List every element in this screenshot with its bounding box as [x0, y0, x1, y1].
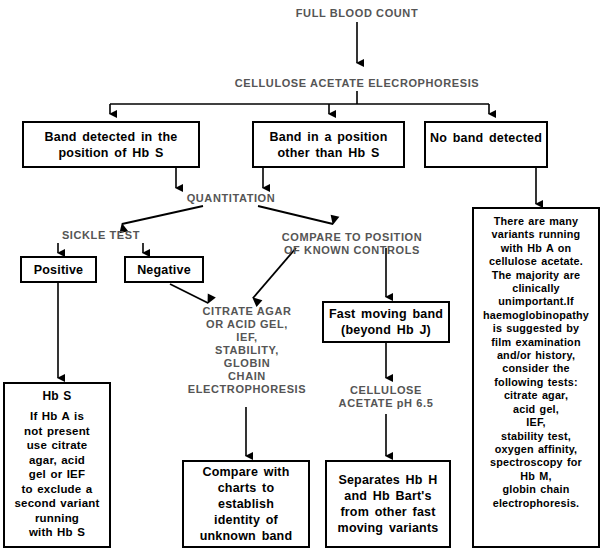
node-cellulose-acetate-ph-line2: ACETATE pH 6.5 [339, 397, 434, 410]
node-band-detected-hb-s[interactable]: Band detected in the position of Hb S [22, 121, 200, 168]
node-full-blood-count: FULL BLOOD COUNT [272, 4, 442, 22]
node-citrate-agar-tests-line3: IEF, [236, 331, 257, 344]
node-sickle-test-label: SICKLE TEST [62, 229, 140, 242]
node-many-variants-line16: IEF, [526, 416, 545, 429]
node-citrate-agar-tests-line6: CHAIN [228, 370, 266, 383]
node-hb-s-details-line9: with Hb S [29, 525, 85, 540]
node-citrate-agar-tests-line2: OR ACID GEL, [206, 318, 288, 331]
node-band-detected-hb-s-line1: Band detected in the [45, 129, 178, 145]
node-many-variants-line2: variants running [492, 228, 581, 241]
node-many-variants-line6: clinically [512, 282, 560, 295]
node-many-variants-advice[interactable]: There are many variants running with Hb … [472, 207, 600, 548]
node-hb-s-details-line3: use citrate [27, 438, 88, 453]
node-hb-s-details-line8: running [35, 511, 79, 526]
node-positive[interactable]: Positive [20, 256, 97, 283]
node-compare-with-charts-line3: establish [218, 496, 274, 512]
node-hb-s-details-line7: second variant [15, 496, 100, 511]
node-cellulose-acetate-ph: CELLULOSE ACETATE pH 6.5 [318, 380, 454, 414]
node-cellulose-acetate-ph-line1: CELLULOSE [350, 384, 422, 397]
node-sickle-test: SICKLE TEST [48, 227, 154, 243]
node-compare-to-position-line1: COMPARE TO POSITION [282, 231, 423, 244]
node-many-variants-line7: unimportant.If [498, 295, 573, 308]
node-band-detected-hb-s-line2: position of Hb S [58, 145, 163, 161]
node-fast-moving-band[interactable]: Fast moving band (beyond Hb J) [322, 301, 450, 343]
node-compare-with-charts[interactable]: Compare with charts to establish identit… [182, 460, 310, 548]
node-many-variants-line5: The majority are [492, 269, 581, 282]
node-quantitation-label: QUANTITATION [187, 192, 276, 205]
node-hb-s-details-line2: not present [24, 424, 90, 439]
node-many-variants-line4: cellulose acetate. [489, 255, 583, 268]
node-quantitation: QUANTITATION [166, 190, 296, 206]
node-cellulose-acetate-electrophoresis: CELLULOSE ACETATE ELECROPHORESIS [172, 74, 542, 92]
node-full-blood-count-label: FULL BLOOD COUNT [296, 7, 418, 20]
node-many-variants-line3: with Hb A on [501, 242, 572, 255]
node-fast-moving-band-line2: (beyond Hb J) [341, 322, 431, 338]
node-separates-hb-h-line1: Separates Hb H [338, 472, 437, 488]
node-many-variants-line22: electrophoresis. [493, 497, 580, 510]
node-hb-s-details-heading: Hb S [42, 389, 71, 404]
node-compare-with-charts-line5: unknown band [200, 528, 293, 544]
node-separates-hb-h-line2: and Hb Bart's [344, 488, 431, 504]
node-band-other-position[interactable]: Band in a position other than Hb S [252, 121, 405, 168]
node-many-variants-line8: haemoglobinopathy [483, 309, 589, 322]
node-citrate-agar-tests: CITRATE AGAR OR ACID GEL, IEF, STABILITY… [186, 305, 308, 405]
node-no-band-detected-label: No band detected [430, 130, 542, 146]
node-many-variants-line13: following tests: [494, 376, 577, 389]
node-many-variants-line17: stability test, [501, 430, 571, 443]
node-hb-s-details-line4: agar, acid [29, 453, 85, 468]
node-citrate-agar-tests-line4: STABILITY, [215, 344, 279, 357]
node-hb-s-details-line6: to exclude a [22, 482, 93, 497]
node-many-variants-line15: acid gel, [513, 403, 559, 416]
node-compare-to-position-line2: OF KNOWN CONTROLS [284, 244, 420, 257]
node-no-band-detected[interactable]: No band detected [424, 121, 548, 168]
node-band-other-position-line2: other than Hb S [277, 145, 379, 161]
node-band-other-position-line1: Band in a position [270, 129, 388, 145]
node-negative-label: Negative [137, 262, 191, 278]
node-separates-hb-h[interactable]: Separates Hb H and Hb Bart's from other … [325, 460, 451, 548]
node-many-variants-line20: Hb M, [520, 470, 551, 483]
node-many-variants-line21: globin chain [503, 483, 570, 496]
node-citrate-agar-tests-line1: CITRATE AGAR [202, 305, 291, 318]
node-many-variants-line12: consider the [502, 362, 570, 375]
node-citrate-agar-tests-line7: ELECTROPHORESIS [188, 383, 306, 396]
node-negative[interactable]: Negative [124, 256, 204, 283]
node-many-variants-line11: and/or history, [497, 349, 575, 362]
node-many-variants-line18: oxygen affinity, [495, 443, 578, 456]
node-citrate-agar-tests-line5: GLOBIN [224, 357, 270, 370]
node-hb-s-details[interactable]: Hb S If Hb A is not present use citrate … [3, 382, 111, 548]
node-many-variants-line9: is suggested by [493, 322, 580, 335]
node-compare-with-charts-line2: charts to [218, 480, 275, 496]
node-many-variants-line14: citrate agar, [504, 389, 568, 402]
node-hb-s-details-line1: If Hb A is [30, 409, 84, 424]
node-compare-with-charts-line1: Compare with [202, 464, 289, 480]
node-many-variants-line19: spectroscopy for [490, 456, 582, 469]
node-separates-hb-h-line4: moving variants [338, 520, 439, 536]
node-many-variants-line1: There are many [494, 215, 579, 228]
node-positive-label: Positive [34, 262, 84, 278]
node-many-variants-line10: film examination [491, 336, 580, 349]
node-hb-s-details-line5: gel or IEF [29, 467, 85, 482]
node-separates-hb-h-line3: from other fast [340, 504, 435, 520]
node-compare-to-position: COMPARE TO POSITION OF KNOWN CONTROLS [257, 227, 447, 261]
node-compare-with-charts-line4: identity of [214, 512, 278, 528]
flowchart-canvas: FULL BLOOD COUNT CELLULOSE ACETATE ELECR… [0, 0, 608, 557]
node-fast-moving-band-line1: Fast moving band [329, 306, 443, 322]
node-cellulose-acetate-electrophoresis-label: CELLULOSE ACETATE ELECROPHORESIS [235, 77, 480, 90]
